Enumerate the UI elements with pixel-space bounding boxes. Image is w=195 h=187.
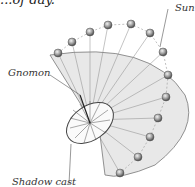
- shadow-label: Shadow cast: [12, 176, 76, 187]
- sundial-illustration: [0, 0, 195, 187]
- ground-plane: [50, 52, 189, 176]
- sun-label: Sun: [175, 2, 195, 13]
- gnomon-label: Gnomon: [8, 67, 50, 78]
- sundial-diagram: ...of day.: [0, 0, 195, 187]
